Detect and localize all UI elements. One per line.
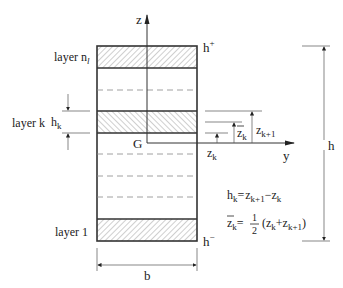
formula-fraction-num: 1	[252, 212, 257, 223]
zbar-k-label: zk	[237, 126, 247, 142]
y-axis-label: y	[283, 148, 290, 163]
zk-label: zk	[207, 146, 217, 162]
formula-fraction-den: 2	[252, 225, 257, 236]
layer-bottom	[97, 219, 197, 241]
laminate-diagram: z y G h+ h− layer nl layer k layer 1 hk …	[0, 0, 343, 288]
h-label: h	[328, 138, 335, 153]
zk1-label: zk+1	[256, 123, 275, 139]
formula-hk: hk=zk+1−zk	[227, 188, 282, 204]
z-dimensions	[205, 111, 262, 143]
b-label: b	[144, 268, 151, 283]
origin-label: G	[133, 136, 142, 151]
height-dimension	[302, 46, 330, 241]
h-plus-label: h+	[203, 38, 215, 55]
hk-label: hk	[51, 115, 62, 131]
layer-k-label: layer k	[12, 116, 45, 130]
layer-thickness-dimension	[62, 94, 90, 150]
z-axis-label: z	[136, 12, 142, 27]
formula-zbar-rhs: (zk+zk+1)	[262, 216, 306, 232]
layer-bottom-label: layer 1	[55, 225, 88, 239]
h-minus-label: h−	[203, 232, 215, 249]
layer-top-label: layer nl	[54, 50, 90, 66]
formula-zbar-lhs: zk=	[227, 216, 244, 232]
